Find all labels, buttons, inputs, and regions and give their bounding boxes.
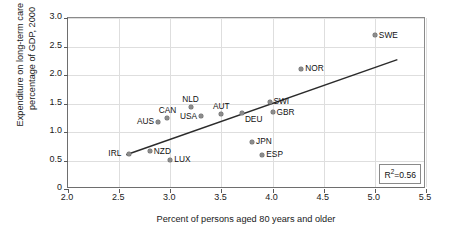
y-axis-tick-label: 0.5 bbox=[28, 154, 62, 164]
y-axis-tick bbox=[64, 47, 68, 48]
data-point-label: LUX bbox=[174, 154, 190, 164]
data-point-marker bbox=[271, 110, 275, 114]
data-point-label: SWI bbox=[274, 96, 290, 106]
data-point-label: USA bbox=[180, 111, 197, 121]
x-axis-tick-label: 2.5 bbox=[98, 192, 138, 202]
data-point-label: JPN bbox=[256, 136, 272, 146]
data-point-label: NZD bbox=[154, 146, 171, 156]
data-point-label: GBR bbox=[277, 107, 295, 117]
y-axis-tick-label: 0 bbox=[28, 182, 62, 192]
x-gridline bbox=[426, 18, 427, 187]
data-point-label: NOR bbox=[305, 63, 323, 73]
y-axis-tick-label: 2.0 bbox=[28, 68, 62, 78]
data-point-label: AUT bbox=[213, 101, 230, 111]
y-axis-tick bbox=[64, 104, 68, 105]
y-axis-tick bbox=[64, 18, 68, 19]
trendline bbox=[68, 18, 426, 189]
x-axis-tick-label: 4.5 bbox=[303, 192, 343, 202]
data-point-label: IRL bbox=[108, 148, 121, 158]
r-squared-annotation: R2=0.56 bbox=[379, 164, 421, 184]
data-point-label: SWE bbox=[379, 30, 398, 40]
data-point-label: CAN bbox=[159, 105, 177, 115]
data-point-marker bbox=[156, 120, 160, 124]
y-axis-tick-label: 2.5 bbox=[28, 40, 62, 50]
y-axis-tick bbox=[64, 132, 68, 133]
y-axis-tick-label: 1.0 bbox=[28, 125, 62, 135]
x-axis-tick-label: 5.0 bbox=[354, 192, 394, 202]
y-axis-tick-label: 3.0 bbox=[28, 11, 62, 21]
plot-area: SWENORSWINLDGBRDEUAUTUSACANAUSJPNNZDIRLE… bbox=[67, 17, 425, 188]
x-axis-tick-label: 4.0 bbox=[252, 192, 292, 202]
x-axis-tick-label: 2.0 bbox=[47, 192, 87, 202]
y-axis-tick-label: 1.5 bbox=[28, 97, 62, 107]
x-axis-title: Percent of persons aged 80 years and old… bbox=[67, 214, 425, 224]
x-axis-tick-label: 3.5 bbox=[200, 192, 240, 202]
data-point-marker bbox=[250, 140, 254, 144]
y-axis-tick bbox=[64, 161, 68, 162]
data-point-marker bbox=[299, 67, 303, 71]
data-point-marker bbox=[199, 114, 203, 118]
data-point-marker bbox=[268, 100, 272, 104]
data-point-label: ESP bbox=[266, 149, 283, 159]
data-point-label: DEU bbox=[245, 114, 263, 124]
x-axis-tick-label: 5.5 bbox=[405, 192, 445, 202]
data-point-label: AUS bbox=[137, 116, 154, 126]
y-axis-tick bbox=[64, 189, 68, 190]
data-point-marker bbox=[373, 33, 377, 37]
scatter-chart-figure: Expenditure on long-term care as percent… bbox=[0, 0, 449, 234]
y-axis-tick bbox=[64, 75, 68, 76]
r-squared-value: 0.56 bbox=[399, 170, 416, 180]
data-point-label: NLD bbox=[182, 94, 199, 104]
x-axis-tick-label: 3.0 bbox=[149, 192, 189, 202]
